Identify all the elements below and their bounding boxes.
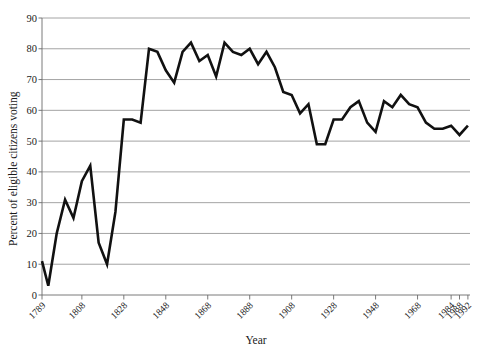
- y-tick-label: 60: [27, 105, 38, 116]
- x-tick-label: 1848: [151, 300, 172, 321]
- x-tick-label: 1808: [67, 300, 88, 321]
- y-axis-title: Percent of eligible citizens voting: [7, 91, 20, 246]
- voter-turnout-chart: 0102030405060708090 17891808182818481868…: [0, 0, 485, 349]
- x-tick-labels: 1789180818281848186818881908192819481968…: [27, 300, 474, 321]
- y-tick-label: 80: [27, 43, 38, 54]
- x-tick-label: 1868: [193, 300, 214, 321]
- y-tick-label: 50: [27, 136, 38, 147]
- x-tick-label: 1908: [277, 300, 298, 321]
- y-tick-label: 10: [27, 259, 38, 270]
- chart-canvas: 0102030405060708090 17891808182818481868…: [0, 0, 485, 349]
- data-line-voter-turnout: [42, 43, 468, 286]
- x-tick-label: 1888: [235, 300, 256, 321]
- y-tick-labels: 0102030405060708090: [27, 13, 43, 301]
- x-tick-label: 1968: [402, 300, 423, 321]
- x-tick-label: 1789: [27, 300, 48, 321]
- y-tick-label: 40: [27, 166, 38, 177]
- x-tick-label: 1828: [109, 300, 130, 321]
- gridlines: [42, 18, 470, 264]
- x-axis-title: Year: [245, 334, 266, 346]
- y-tick-label: 0: [32, 290, 37, 301]
- y-tick-label: 20: [27, 228, 38, 239]
- y-tick-label: 90: [27, 13, 38, 24]
- x-tick-label: 1948: [360, 300, 381, 321]
- x-tick-label: 1928: [319, 300, 340, 321]
- y-tick-label: 30: [27, 197, 38, 208]
- y-tick-label: 70: [27, 74, 38, 85]
